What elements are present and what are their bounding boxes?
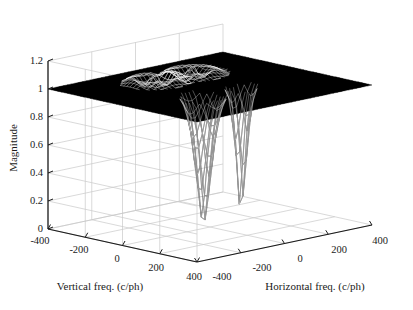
z-tick-label: 1.2 — [30, 55, 43, 66]
z-tick-label: 0.6 — [30, 139, 43, 150]
plot-text-layer: 1.2 1 0.8 0.6 0.4 0.2 0 -400 -200 0 200 … — [0, 0, 413, 310]
z-tick-label: 1 — [38, 83, 43, 94]
z-tick-label: 0.2 — [30, 195, 43, 206]
horizontal-tick-label: -400 — [212, 271, 231, 282]
vertical-tick-label: 0 — [114, 253, 119, 264]
horizontal-tick-label: -200 — [252, 262, 271, 273]
y-axis-title: Vertical freq. (c/ph) — [57, 280, 144, 293]
figure-3d-surface-plot: 1.2 1 0.8 0.6 0.4 0.2 0 -400 -200 0 200 … — [0, 0, 413, 310]
vertical-tick-label: -400 — [30, 235, 49, 246]
horizontal-tick-label: 200 — [331, 244, 347, 255]
z-tick-label: 0 — [38, 223, 43, 234]
z-tick-label: 0.4 — [30, 167, 44, 178]
vertical-tick-label: 200 — [148, 262, 164, 273]
x-axis-title: Horizontal freq. (c/ph) — [265, 280, 365, 293]
horizontal-tick-label: 400 — [372, 235, 388, 246]
vertical-tick-label: 400 — [186, 271, 202, 282]
z-axis-title: Magnitude — [7, 124, 19, 172]
vertical-tick-label: -200 — [69, 244, 88, 255]
z-tick-label: 0.8 — [30, 111, 43, 122]
horizontal-tick-label: 0 — [297, 253, 302, 264]
